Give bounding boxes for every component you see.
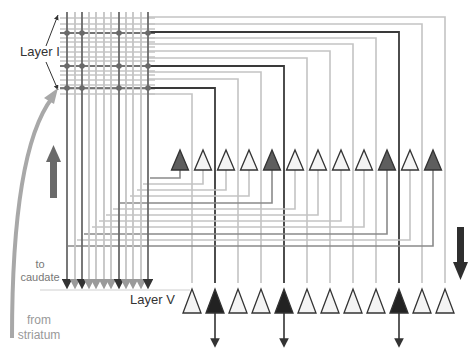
layer-v-axon	[148, 24, 422, 283]
layer-v-neuron-open	[367, 289, 385, 313]
from-striatum-line1: from	[12, 313, 66, 328]
layer-v-neuron-open	[229, 289, 247, 313]
cortical-circuit-diagram	[0, 0, 475, 354]
layer-five-neuron-row	[183, 289, 454, 343]
layer-v-neuron-open	[436, 289, 454, 313]
layer-v-neuron-open	[344, 289, 362, 313]
layer-one-label: Layer I	[20, 44, 60, 59]
upper-neuron-axon	[77, 170, 410, 240]
synapse-dot	[116, 30, 122, 36]
to-caudate-line1: to	[18, 258, 62, 271]
layer-v-neuron-open	[183, 289, 201, 313]
layer-v-neuron-filled	[275, 289, 293, 313]
synapse-dot	[79, 30, 85, 36]
layer-v-neuron-open	[252, 289, 270, 313]
upper-neuron-axon	[137, 170, 226, 190]
synapse-dot	[64, 85, 70, 91]
pyramidal-neuron-filled	[172, 150, 189, 170]
synapse-dot	[145, 30, 151, 36]
layer-v-neuron-filled	[206, 289, 224, 313]
synapse-dot	[145, 85, 151, 91]
pyramidal-neuron-open	[333, 150, 350, 170]
pyramidal-neuron-open	[241, 150, 258, 170]
pyramidal-neuron-open	[356, 150, 373, 170]
upper-neuron-axon	[150, 170, 180, 178]
pyramidal-neuron-open	[287, 150, 304, 170]
pyramidal-neuron-open	[310, 150, 327, 170]
synapse-dot	[64, 30, 70, 36]
up-arrow-icon	[46, 145, 61, 198]
layer-v-axon	[148, 94, 192, 283]
layer-five-label: Layer V	[130, 292, 175, 307]
layer-v-neuron-open	[321, 289, 339, 313]
layer-v-neuron-open	[298, 289, 316, 313]
layer-one-pointer-down	[46, 62, 58, 90]
synapse-dot	[79, 63, 85, 69]
layer-v-neuron-filled	[390, 289, 408, 313]
pyramidal-neuron-filled	[425, 150, 442, 170]
layer-v-axon	[148, 79, 238, 283]
upper-neuron-axon	[143, 170, 203, 184]
to-caudate-label: to caudate	[18, 258, 62, 284]
striatum-arrowhead-icon	[44, 88, 58, 104]
pyramidal-neuron-filled	[264, 150, 281, 170]
synapse-dot	[64, 63, 70, 69]
synapse-dot	[145, 63, 151, 69]
synapse-dot	[79, 85, 85, 91]
layer-v-axon	[148, 66, 284, 283]
pyramidal-neuron-open	[402, 150, 419, 170]
synapse-dot	[116, 63, 122, 69]
layer-v-neuron-open	[413, 289, 431, 313]
layer-v-axon	[148, 88, 215, 283]
synapse-dot	[116, 85, 122, 91]
striatum-input-arrow	[12, 98, 52, 338]
pyramidal-neuron-open	[218, 150, 235, 170]
pyramidal-neuron-open	[195, 150, 212, 170]
down-arrow-icon	[453, 227, 468, 280]
pyramidal-neuron-filled	[379, 150, 396, 170]
to-caudate-line2: caudate	[18, 271, 62, 284]
from-striatum-line2: striatum	[12, 328, 66, 343]
from-striatum-label: from striatum	[12, 313, 66, 343]
layer-one-pointer-up	[46, 15, 58, 46]
